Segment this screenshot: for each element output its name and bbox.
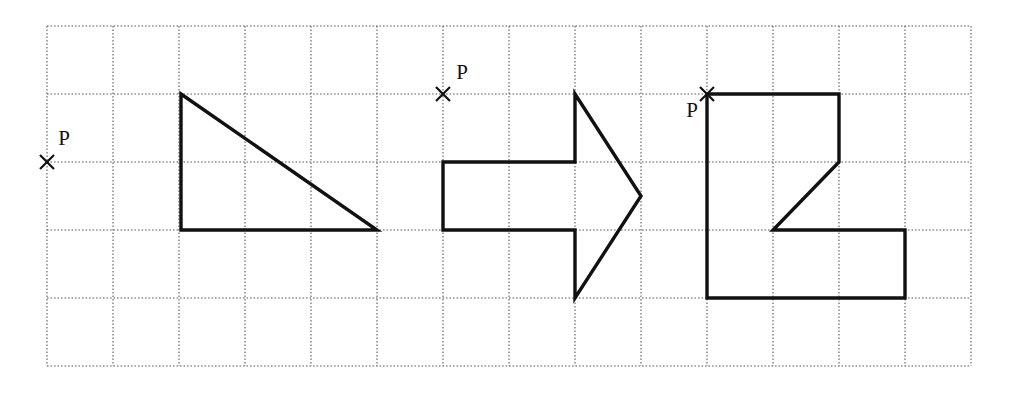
- point-p-3: P: [686, 87, 714, 122]
- arrow-pentagon: [443, 94, 641, 298]
- right-triangle: [181, 94, 377, 230]
- point-label: P: [58, 126, 70, 150]
- shape-outlines: [181, 94, 905, 298]
- z-block-polygon: [707, 94, 905, 298]
- grid-lines: [47, 26, 971, 366]
- figure-canvas: PPP: [0, 0, 1013, 394]
- point-label: P: [686, 98, 698, 122]
- point-label: P: [456, 60, 468, 84]
- point-p-2: P: [436, 60, 468, 101]
- geometry-figure: PPP: [0, 0, 1013, 394]
